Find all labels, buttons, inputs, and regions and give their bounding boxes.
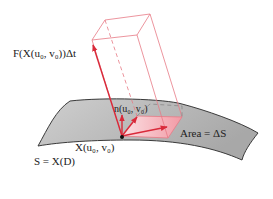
flux-vector-label: F(X(u₀, v₀))Δt [13,47,76,60]
surface-label: S = X(D) [34,155,75,168]
base-point-label: X(u₀, v₀) [75,141,115,154]
base-point-dot [120,135,124,139]
area-label: Area = ΔS [180,127,226,139]
normal-label: n(u₀, v₀) [114,103,148,115]
flux-diagram: F(X(u₀, v₀))Δt n(u₀, v₀) X(u₀, v₀) Area … [0,0,273,199]
